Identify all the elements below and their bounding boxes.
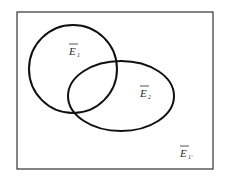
venn-diagram: E 1 E 2 E 1' (0, 0, 228, 182)
svg-text:1: 1 (77, 52, 80, 58)
universe-frame (17, 12, 213, 169)
svg-text:E: E (68, 45, 76, 57)
svg-text:E: E (179, 147, 187, 159)
svg-text:E: E (139, 87, 147, 99)
universe-label: E 1' (179, 146, 193, 160)
set-e1-label: E 1 (68, 44, 80, 58)
set-e2-ellipse (68, 61, 174, 131)
set-e1-circle (29, 25, 117, 113)
svg-text:2: 2 (148, 94, 151, 100)
svg-text:1': 1' (188, 154, 193, 160)
set-e2-label: E 2 (139, 86, 151, 100)
